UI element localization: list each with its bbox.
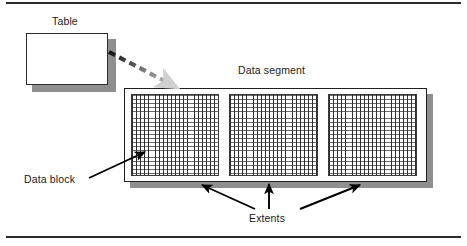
top-rule [6,2,461,4]
diagram-canvas: Table Data segment Data block Extents [0,0,467,246]
extents-label: Extents [249,212,285,224]
data-block-label: Data block [24,173,75,185]
extent-block [229,94,318,176]
dashed-gradient-arrow [109,52,178,88]
bottom-rule [6,236,461,238]
extent-block [328,94,417,176]
table-box [26,33,108,85]
table-label: Table [52,15,78,27]
extent-block [131,94,219,176]
data-segment-label: Data segment [238,64,305,76]
